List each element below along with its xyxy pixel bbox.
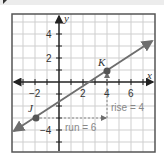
point-k-label: K — [97, 56, 106, 68]
x-tick-label: 6 — [128, 88, 134, 99]
point-k — [104, 68, 111, 75]
point-j-label: J — [28, 102, 34, 114]
rise-label: rise = 4 — [111, 102, 145, 113]
run-label: run = 6 — [65, 122, 97, 133]
y-tick-label: 4 — [46, 29, 52, 40]
x-tick-label: 2 — [80, 88, 86, 99]
y-axis-label: y — [63, 12, 69, 24]
y-tick-label: −4 — [40, 125, 52, 136]
x-axis-label: x — [146, 69, 152, 81]
y-tick-label: 2 — [46, 53, 52, 64]
point-j — [33, 115, 40, 122]
x-tick-label: −2 — [29, 88, 41, 99]
coordinate-plane: y x −2 2 4 6 4 2 −4 J K rise = 4 run = 6 — [0, 0, 164, 157]
